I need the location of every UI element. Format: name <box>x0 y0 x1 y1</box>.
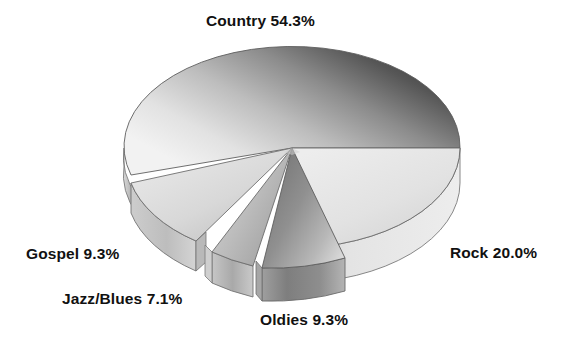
pie-chart-graphic <box>0 0 575 364</box>
slice-label-jazz-blues: Jazz/Blues 7.1% <box>62 290 182 308</box>
slice-label-country: Country 54.3% <box>206 12 315 30</box>
slice-label-rock: Rock 20.0% <box>450 244 537 262</box>
pie-chart: Country 54.3% Rock 20.0% Oldies 9.3% Jaz… <box>0 0 575 364</box>
slice-label-gospel: Gospel 9.3% <box>26 245 119 263</box>
slice-label-oldies: Oldies 9.3% <box>260 311 348 329</box>
